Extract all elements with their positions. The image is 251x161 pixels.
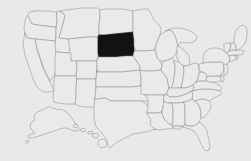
state-nebraska[interactable] <box>97 56 140 72</box>
us-map-container <box>0 0 251 161</box>
state-wyoming[interactable] <box>69 37 98 61</box>
state-south-dakota[interactable] <box>98 32 134 57</box>
state-colorado[interactable] <box>76 61 97 79</box>
us-map-svg <box>0 0 251 161</box>
state-alabama[interactable] <box>172 102 185 126</box>
state-maryland[interactable] <box>206 76 222 82</box>
state-north-dakota[interactable] <box>99 9 133 35</box>
state-arkansas[interactable] <box>145 95 164 113</box>
state-new-mexico[interactable] <box>75 79 96 107</box>
state-montana[interactable] <box>59 8 100 39</box>
state-arizona[interactable] <box>53 76 77 104</box>
state-kansas[interactable] <box>96 70 141 87</box>
state-delaware[interactable] <box>221 75 224 82</box>
